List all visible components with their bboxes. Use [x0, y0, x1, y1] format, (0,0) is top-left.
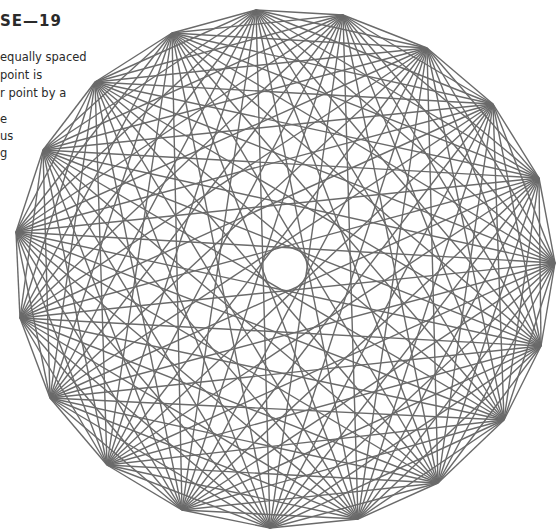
graph-edge — [50, 398, 358, 519]
complete-graph-diagram — [0, 0, 558, 529]
graph-edge — [256, 10, 555, 263]
graph-edge — [182, 48, 427, 510]
graph-edge — [358, 48, 427, 519]
graph-edge — [256, 10, 493, 104]
graph-edge — [172, 33, 270, 528]
graph-edge — [107, 104, 493, 465]
graph-edge — [16, 232, 504, 420]
graph-edge — [270, 519, 358, 528]
graph-edge — [107, 178, 539, 465]
graph-edge — [256, 10, 504, 420]
graph-edge — [43, 10, 256, 150]
graph-edge — [172, 33, 438, 483]
graph-edge — [493, 104, 555, 263]
graph-edge — [427, 48, 555, 263]
graph-edge — [50, 82, 95, 398]
graph-edge — [95, 82, 182, 510]
graph-edge — [107, 465, 182, 510]
graph-edge — [50, 398, 438, 483]
graph-edge — [107, 465, 358, 519]
graph-edge — [270, 104, 493, 528]
graph-edge — [16, 232, 182, 510]
graph-edge — [16, 33, 172, 232]
graph-edge — [172, 33, 182, 510]
